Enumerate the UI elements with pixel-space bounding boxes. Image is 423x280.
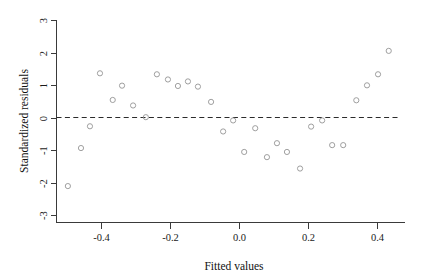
data-point <box>330 143 335 148</box>
data-point <box>175 83 180 88</box>
data-point <box>208 99 213 104</box>
y-tick-label: -2 <box>38 179 49 188</box>
data-point <box>386 48 391 53</box>
data-point <box>154 72 159 77</box>
x-tick-label: -0.4 <box>93 232 110 243</box>
y-axis-tick-labels: -3-2-10123 <box>38 18 49 220</box>
data-point-group <box>65 48 391 188</box>
x-tick-label: -0.2 <box>162 232 179 243</box>
data-point <box>284 149 289 154</box>
data-point <box>221 129 226 134</box>
x-axis-tick-labels: -0.4-0.20.00.20.4 <box>93 232 385 243</box>
data-point <box>185 79 190 84</box>
data-point <box>130 103 135 108</box>
residual-plot: -3-2-10123 -0.4-0.20.00.20.4 Standardize… <box>0 0 423 280</box>
y-tick-label: 3 <box>38 18 49 23</box>
data-point <box>264 155 269 160</box>
scatter-plot-canvas: -3-2-10123 -0.4-0.20.00.20.4 Standardize… <box>0 0 423 280</box>
data-point <box>320 118 325 123</box>
data-point <box>195 84 200 89</box>
y-tick-label: 1 <box>38 83 49 88</box>
data-point <box>364 83 369 88</box>
data-point <box>309 124 314 129</box>
data-point <box>97 71 102 76</box>
data-point <box>341 143 346 148</box>
y-tick-label: -3 <box>38 211 49 220</box>
data-point <box>65 183 70 188</box>
data-point <box>165 77 170 82</box>
y-axis-ticks <box>51 21 57 216</box>
data-point <box>87 124 92 129</box>
data-point <box>78 145 83 150</box>
y-tick-label: 0 <box>38 116 49 121</box>
data-point <box>354 98 359 103</box>
data-point <box>231 118 236 123</box>
y-tick-label: 2 <box>38 51 49 56</box>
data-point <box>274 141 279 146</box>
x-axis-ticks <box>102 223 378 229</box>
data-point <box>297 166 302 171</box>
data-point <box>375 72 380 77</box>
data-point <box>119 83 124 88</box>
x-tick-label: 0.4 <box>371 232 385 243</box>
y-tick-label: -1 <box>38 146 49 155</box>
data-point <box>110 97 115 102</box>
x-tick-label: 0.0 <box>233 232 246 243</box>
y-axis-title: Standardized residuals <box>18 69 30 173</box>
x-tick-label: 0.2 <box>302 232 315 243</box>
data-point <box>253 126 258 131</box>
data-point <box>242 149 247 154</box>
x-axis-title: Fitted values <box>204 260 264 272</box>
